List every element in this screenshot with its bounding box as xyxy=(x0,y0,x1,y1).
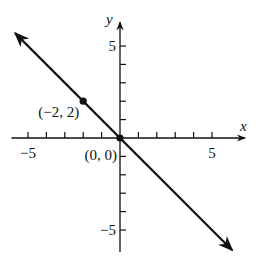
y-tick-label: 5 xyxy=(109,38,117,54)
point-label: (−2, 2) xyxy=(38,104,79,121)
y-axis-label: y xyxy=(104,11,113,27)
point-label: (0, 0) xyxy=(85,147,118,164)
x-tick-label: −5 xyxy=(20,145,36,161)
line-series xyxy=(15,33,232,250)
point-marker xyxy=(80,98,87,105)
x-axis-label: x xyxy=(239,118,247,134)
x-tick-label: 5 xyxy=(208,145,216,161)
data-points: (−2, 2)(0, 0) xyxy=(38,98,123,164)
y-tick-label: −5 xyxy=(100,222,116,238)
point-marker xyxy=(116,134,123,141)
coordinate-plane: −555−5 (−2, 2)(0, 0) x y xyxy=(0,0,257,267)
line-y-equals-neg-x xyxy=(15,33,232,250)
